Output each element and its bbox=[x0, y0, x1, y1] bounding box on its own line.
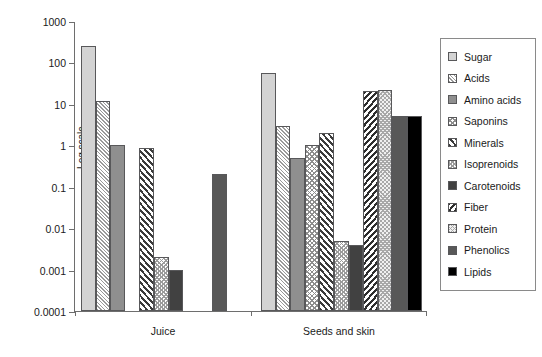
legend-item-label: Phenolics bbox=[464, 244, 510, 256]
legend: SugarAcidsAmino acidsSaponinsMineralsIso… bbox=[440, 38, 536, 291]
legend-swatch-icon bbox=[448, 246, 457, 255]
legend-swatch-icon bbox=[448, 267, 457, 276]
y-tick-label: 0.01 bbox=[46, 223, 66, 235]
legend-swatch-icon bbox=[448, 203, 457, 212]
legend-swatch-icon bbox=[448, 224, 457, 233]
y-tick-label: 10 bbox=[54, 99, 66, 111]
legend-item-label: Fiber bbox=[464, 201, 488, 213]
y-tick-label: 0.1 bbox=[51, 182, 66, 194]
legend-item-label: Lipids bbox=[464, 266, 491, 278]
legend-item-label: Protein bbox=[464, 223, 497, 235]
legend-item-isoprenoids[interactable]: Isoprenoids bbox=[448, 154, 530, 176]
bar bbox=[110, 145, 125, 311]
legend-item-label: Saponins bbox=[464, 115, 508, 127]
legend-swatch-icon bbox=[448, 138, 457, 147]
bar bbox=[212, 174, 227, 311]
bar bbox=[319, 133, 334, 311]
x-tick-mark bbox=[251, 311, 252, 316]
bar bbox=[378, 90, 393, 311]
legend-item-label: Minerals bbox=[464, 137, 504, 149]
legend-item-acids[interactable]: Acids bbox=[448, 68, 530, 90]
y-tick-label: 0.0001 bbox=[34, 306, 66, 318]
legend-item-carotenoids[interactable]: Carotenoids bbox=[448, 175, 530, 197]
plot-area: Log scale 10001001010.10.010.0010.0001 J… bbox=[74, 22, 426, 312]
legend-swatch-icon bbox=[448, 160, 457, 169]
y-tick-mark bbox=[69, 105, 75, 106]
bar bbox=[154, 257, 169, 311]
legend-item-protein[interactable]: Protein bbox=[448, 218, 530, 240]
bar bbox=[305, 145, 320, 311]
bar bbox=[334, 241, 349, 311]
bar bbox=[276, 126, 291, 311]
bar bbox=[96, 101, 111, 311]
y-tick-label: 1000 bbox=[43, 16, 66, 28]
y-tick-mark bbox=[69, 188, 75, 189]
y-tick-label: 1 bbox=[60, 140, 66, 152]
x-tick-mark bbox=[426, 311, 427, 316]
bar bbox=[407, 116, 422, 311]
y-tick-mark bbox=[69, 229, 75, 230]
legend-item-label: Amino acids bbox=[464, 94, 521, 106]
bar bbox=[349, 245, 364, 311]
legend-swatch-icon bbox=[448, 74, 457, 83]
bar bbox=[363, 91, 378, 311]
y-tick-mark bbox=[69, 146, 75, 147]
legend-item-saponins[interactable]: Saponins bbox=[448, 111, 530, 133]
legend-item-fiber[interactable]: Fiber bbox=[448, 197, 530, 219]
y-tick-mark bbox=[69, 271, 75, 272]
legend-item-label: Carotenoids bbox=[464, 180, 521, 192]
legend-swatch-icon bbox=[448, 95, 457, 104]
legend-item-amino-acids[interactable]: Amino acids bbox=[448, 89, 530, 111]
legend-swatch-icon bbox=[448, 117, 457, 126]
bar bbox=[392, 116, 407, 311]
y-tick-mark bbox=[69, 22, 75, 23]
y-tick-label: 100 bbox=[48, 57, 66, 69]
x-tick-mark bbox=[75, 311, 76, 316]
y-tick-mark bbox=[69, 63, 75, 64]
bar bbox=[81, 46, 96, 311]
legend-swatch-icon bbox=[448, 52, 457, 61]
bar bbox=[169, 270, 184, 311]
bar bbox=[261, 73, 276, 311]
bar bbox=[139, 148, 154, 311]
legend-item-label: Isoprenoids bbox=[464, 158, 518, 170]
legend-item-sugar[interactable]: Sugar bbox=[448, 46, 530, 68]
category-label-juice: Juice bbox=[151, 325, 176, 337]
legend-item-minerals[interactable]: Minerals bbox=[448, 132, 530, 154]
legend-item-label: Sugar bbox=[464, 51, 492, 63]
bar bbox=[290, 158, 305, 311]
legend-item-label: Acids bbox=[464, 72, 490, 84]
bar-chart: Log scale 10001001010.10.010.0010.0001 J… bbox=[0, 0, 542, 357]
legend-item-phenolics[interactable]: Phenolics bbox=[448, 240, 530, 262]
legend-item-lipids[interactable]: Lipids bbox=[448, 261, 530, 283]
category-label-seeds-and-skin: Seeds and skin bbox=[303, 325, 375, 337]
legend-swatch-icon bbox=[448, 181, 457, 190]
y-tick-label: 0.001 bbox=[40, 265, 66, 277]
